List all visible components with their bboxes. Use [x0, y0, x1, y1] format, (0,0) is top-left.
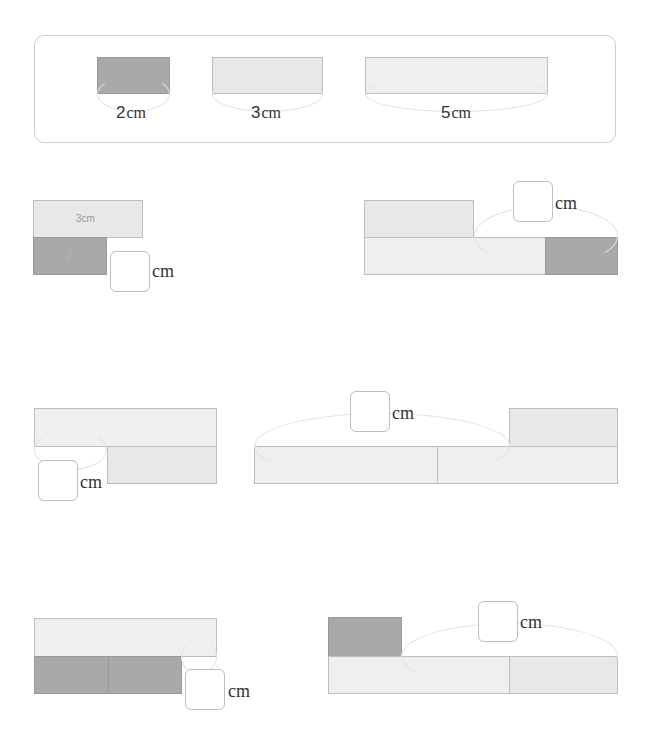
- inner-label: 2: [66, 250, 72, 261]
- bar-2cm: [328, 617, 402, 657]
- bar-2cm: [108, 656, 182, 694]
- answer-box[interactable]: [185, 669, 225, 710]
- answer-box[interactable]: [350, 391, 390, 432]
- unit-label: cm: [228, 681, 250, 702]
- answer-box[interactable]: [478, 601, 518, 642]
- legend-label-5cm: 5cm: [441, 103, 471, 123]
- unit-label: cm: [520, 612, 542, 633]
- legend-label-3cm: 3cm: [251, 103, 281, 123]
- unit-label: cm: [152, 261, 174, 282]
- bar-3cm: [107, 446, 217, 484]
- answer-box[interactable]: [38, 460, 78, 501]
- answer-box[interactable]: [110, 251, 150, 292]
- unit-label: cm: [80, 472, 102, 493]
- unit-label: cm: [392, 403, 414, 424]
- legend-label-2cm: 2cm: [116, 103, 146, 123]
- bar-2cm: [34, 656, 109, 694]
- bar-3cm: [509, 408, 618, 447]
- bar-3cm: [364, 200, 474, 238]
- answer-box[interactable]: [513, 181, 553, 222]
- unit-label: cm: [555, 193, 577, 214]
- inner-label: 3cm: [76, 213, 95, 224]
